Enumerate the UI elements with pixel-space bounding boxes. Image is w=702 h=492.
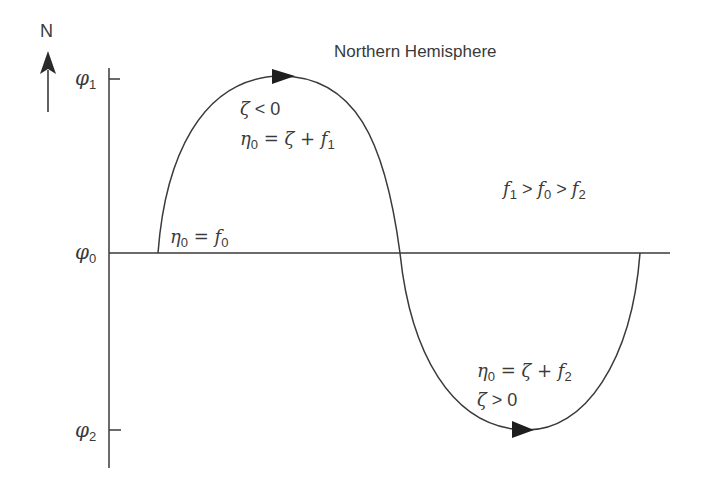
phi1-label: φ1 bbox=[75, 68, 96, 91]
eta-subscript: 0 bbox=[181, 235, 188, 250]
f-symbol: f bbox=[321, 128, 328, 149]
phi2-subscript: 2 bbox=[89, 429, 96, 444]
operator: > bbox=[517, 179, 538, 199]
ridge-arrow-icon bbox=[272, 69, 295, 84]
eta-symbol: η bbox=[240, 128, 251, 149]
phi0-label: φ0 bbox=[75, 242, 96, 265]
diagram-title: Northern Hemisphere bbox=[334, 43, 497, 60]
trajectory-diagram bbox=[0, 0, 702, 492]
start-absolute-vorticity-label: η0 = f0 bbox=[170, 228, 228, 249]
expression: = bbox=[188, 226, 215, 247]
value: 0 bbox=[270, 99, 280, 119]
expression: = ζ + bbox=[495, 360, 558, 381]
eta-symbol: η bbox=[477, 360, 488, 381]
f-symbol: f bbox=[503, 178, 510, 199]
north-arrow-icon bbox=[40, 51, 56, 112]
f-subscript: 1 bbox=[510, 187, 517, 202]
f-symbol: f bbox=[572, 178, 579, 199]
operator: > bbox=[551, 179, 572, 199]
f-subscript: 1 bbox=[328, 137, 335, 152]
ridge-absolute-vorticity-label: η0 = ζ + f1 bbox=[240, 130, 335, 151]
operator: > bbox=[487, 390, 508, 410]
f-subscript: 2 bbox=[565, 369, 572, 384]
trough-absolute-vorticity-label: η0 = ζ + f2 bbox=[477, 362, 572, 383]
value: 0 bbox=[507, 390, 517, 410]
f-subscript: 0 bbox=[221, 235, 228, 250]
f-subscript: 2 bbox=[579, 187, 586, 202]
eta-subscript: 0 bbox=[488, 369, 495, 384]
ridge-vorticity-label: ζ < 0 bbox=[240, 100, 280, 118]
f-symbol: f bbox=[558, 360, 565, 381]
eta-subscript: 0 bbox=[251, 137, 258, 152]
phi1-subscript: 1 bbox=[89, 77, 96, 92]
compass-label: N bbox=[40, 22, 53, 40]
zeta-symbol: ζ bbox=[240, 98, 250, 119]
coriolis-inequality-label: f1 > f0 > f2 bbox=[503, 180, 586, 201]
trough-arrow-icon bbox=[512, 421, 534, 438]
phi2-symbol: φ bbox=[75, 418, 89, 442]
phi2-label: φ2 bbox=[75, 420, 96, 443]
phi1-symbol: φ bbox=[75, 66, 89, 90]
trough-vorticity-label: ζ > 0 bbox=[477, 391, 517, 409]
expression: = ζ + bbox=[258, 128, 321, 149]
phi0-symbol: φ bbox=[75, 240, 89, 264]
operator: < bbox=[250, 99, 271, 119]
zeta-symbol: ζ bbox=[477, 389, 487, 410]
eta-symbol: η bbox=[170, 226, 181, 247]
phi0-subscript: 0 bbox=[89, 251, 96, 266]
